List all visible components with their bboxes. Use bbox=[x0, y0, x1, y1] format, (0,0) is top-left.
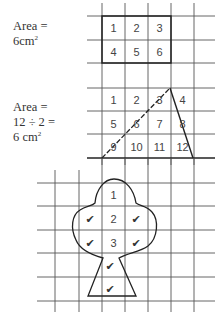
svg-text:2: 2 bbox=[110, 213, 116, 225]
svg-text:3: 3 bbox=[156, 22, 162, 34]
label-line: 6 cm2 bbox=[13, 130, 55, 145]
check-icon: ✔ bbox=[85, 213, 94, 226]
svg-text:10: 10 bbox=[130, 141, 142, 153]
svg-text:9: 9 bbox=[110, 141, 116, 153]
svg-text:6: 6 bbox=[133, 118, 139, 130]
example2-numbers: 1 2 3 4 5 6 7 8 9 10 11 12 bbox=[110, 94, 188, 153]
svg-text:1: 1 bbox=[110, 22, 116, 34]
svg-text:4: 4 bbox=[110, 46, 116, 58]
lower-grid bbox=[37, 158, 215, 312]
svg-text:8: 8 bbox=[179, 118, 185, 130]
check-icon: ✔ bbox=[105, 283, 114, 296]
svg-text:5: 5 bbox=[133, 46, 139, 58]
label-line: Area = bbox=[13, 100, 55, 115]
check-icon: ✔ bbox=[105, 260, 114, 273]
svg-text:3: 3 bbox=[110, 237, 116, 249]
svg-text:1: 1 bbox=[110, 94, 116, 106]
svg-text:2: 2 bbox=[133, 22, 139, 34]
svg-text:6: 6 bbox=[156, 46, 162, 58]
svg-text:11: 11 bbox=[154, 141, 165, 153]
svg-text:1: 1 bbox=[110, 189, 116, 201]
example3-numbers: 1 2 3 bbox=[110, 189, 116, 249]
svg-text:12: 12 bbox=[176, 141, 188, 153]
upper-grid bbox=[87, 3, 215, 165]
label-line: 12 ÷ 2 = bbox=[13, 115, 55, 130]
label-line: Area = bbox=[13, 19, 47, 34]
check-icon: ✔ bbox=[131, 237, 140, 250]
example2-label: Area = 12 ÷ 2 = 6 cm2 bbox=[13, 100, 55, 145]
check-icon: ✔ bbox=[85, 237, 94, 250]
check-icon: ✔ bbox=[131, 213, 140, 226]
label-line: 6cm2 bbox=[13, 34, 47, 49]
svg-text:2: 2 bbox=[133, 94, 139, 106]
example1-label: Area = 6cm2 bbox=[13, 19, 47, 49]
svg-text:5: 5 bbox=[110, 118, 116, 130]
svg-text:4: 4 bbox=[179, 94, 185, 106]
svg-text:3: 3 bbox=[156, 94, 162, 106]
svg-text:7: 7 bbox=[156, 118, 162, 130]
